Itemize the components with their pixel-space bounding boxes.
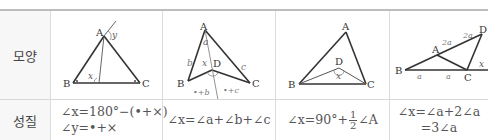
svg-text:D: D [479, 24, 487, 35]
svg-text:y: y [111, 30, 118, 40]
property-dart: ∠x=∠a+∠b+∠c [163, 100, 275, 140]
svg-text:C: C [142, 78, 150, 89]
property-isosceles-chain: ∠x=∠a+2∠a =3∠a [390, 100, 488, 140]
svg-text:B: B [177, 78, 184, 89]
svg-text:2a: 2a [462, 31, 473, 40]
fraction: 12 [349, 110, 357, 131]
triangle-diagram-1: A B C y x [51, 11, 162, 99]
svg-text:b: b [187, 58, 193, 68]
fraction-numerator: 1 [349, 110, 357, 121]
svg-text:A: A [431, 44, 440, 55]
svg-text:a: a [446, 72, 451, 81]
figure-exterior-angle: A B C y x [51, 11, 162, 99]
property-line: ∠y=•+× [61, 120, 117, 136]
property-exterior-angle: ∠x=180°−(•+×) ∠y=•+× [51, 100, 162, 140]
svg-text:A: A [199, 21, 208, 32]
triangle-diagram-2: A B C D a x b c •+b •+c [163, 11, 275, 99]
property-line: ∠x=90°+12∠A [287, 110, 378, 131]
svg-text:D: D [213, 58, 221, 69]
triangle-diagram-4: A B C D a a 2a 2a x [390, 11, 488, 99]
svg-text:x: x [88, 71, 93, 81]
property-line: ∠x=∠a+∠b+∠c [168, 112, 271, 128]
property-prefix: ∠x=90°+ [287, 112, 348, 127]
svg-text:B: B [395, 65, 402, 76]
row-label-property: 성질 [0, 111, 50, 130]
svg-text:A: A [341, 21, 350, 32]
property-line: ∠x=180°−(•+×) [61, 104, 168, 120]
svg-text:•+c: •+c [223, 86, 239, 95]
svg-text:B: B [288, 79, 295, 90]
svg-text:B: B [63, 78, 70, 89]
svg-text:D: D [335, 56, 343, 67]
fraction-denominator: 2 [350, 121, 356, 131]
property-suffix: ∠A [358, 112, 378, 127]
figure-dart: A B C D a x b c •+b •+c [163, 11, 275, 99]
svg-text:x: x [479, 59, 484, 69]
svg-text:a: a [203, 37, 208, 47]
triangle-diagram-3: A B C D x [276, 11, 389, 99]
svg-text:x: x [202, 58, 207, 68]
svg-text:x: x [336, 71, 341, 81]
svg-text:C: C [464, 72, 472, 83]
svg-text:C: C [252, 78, 260, 89]
property-line: =3∠a [421, 120, 457, 136]
figure-isosceles-chain: A B C D a a 2a 2a x [390, 11, 488, 99]
svg-text:c: c [241, 62, 246, 72]
svg-text:2a: 2a [441, 38, 452, 47]
row-label-shape: 모양 [0, 46, 50, 65]
property-bisector: ∠x=90°+12∠A [276, 100, 389, 140]
svg-text:•+b: •+b [193, 88, 210, 97]
property-line: ∠x=∠a+2∠a [398, 104, 480, 120]
svg-text:A: A [95, 27, 104, 38]
svg-text:a: a [417, 72, 422, 81]
svg-text:C: C [367, 79, 375, 90]
figure-bisector: A B C D x [276, 11, 389, 99]
